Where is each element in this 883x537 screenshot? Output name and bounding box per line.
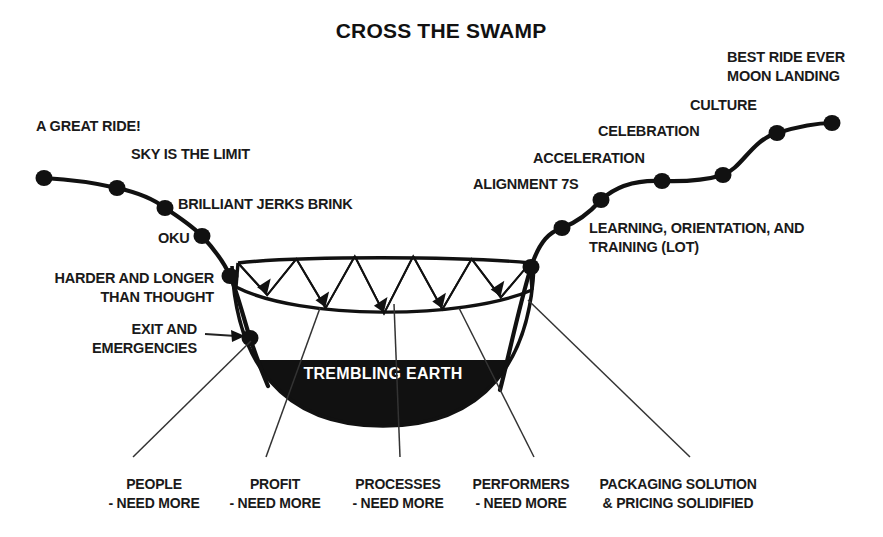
trembling-earth-label: TREMBLING EARTH [303,365,462,382]
bottom-label-packaging: PACKAGING SOLUTION& PRICING SOLIDIFIED [599,476,756,511]
milestone-label-culture: CULTURE [690,97,757,113]
milestone-node-best-ride-ever-end[interactable] [824,115,841,131]
milestone-node-oku[interactable] [194,228,211,244]
page-title: CROSS THE SWAMP [336,19,547,42]
milestone-node-alignment-7s[interactable] [554,220,571,236]
milestone-label-alignment-7s: ALIGNMENT 7S [473,176,579,192]
bottom-label-performers: PERFORMERS- NEED MORE [473,476,570,511]
milestone-node-a-great-ride[interactable] [36,170,53,186]
milestone-node-sky-is-the-limit[interactable] [109,180,126,196]
milestone-node-harder-and-longer[interactable] [222,268,239,284]
milestone-label-harder-and-longer: HARDER AND LONGERTHAN THOUGHT [54,270,214,305]
milestone-label-exit-emergencies: EXIT ANDEMERGENCIES [92,321,197,356]
trembling-earth-region: TREMBLING EARTH [225,360,545,440]
bottom-labels: PEOPLE- NEED MOREPROFIT- NEED MOREPROCES… [108,476,756,511]
milestone-label-sky-is-the-limit: SKY IS THE LIMIT [131,146,250,162]
diagram-root: CROSS THE SWAMP TREMBLING EARTH [0,0,883,537]
band-top-edge [238,258,530,263]
milestone-label-brilliant-jerks: BRILLIANT JERKS BRINK [178,196,353,212]
milestone-node-exit-emergencies[interactable] [242,330,259,346]
milestone-node-learning-lot[interactable] [523,259,540,275]
milestone-node-brilliant-jerks[interactable] [157,200,174,216]
milestone-node-celebration[interactable] [654,173,671,189]
milestone-label-a-great-ride: A GREAT RIDE! [36,118,141,134]
milestone-node-acceleration[interactable] [593,192,610,208]
milestone-label-oku: OKU [158,230,190,246]
bottom-label-processes: PROCESSES- NEED MORE [352,476,443,511]
bottom-label-people: PEOPLE- NEED MORE [108,476,199,511]
milestone-label-moon-landing: BEST RIDE EVERMOON LANDING [727,49,846,84]
leader-line-people [133,341,251,457]
band-arrow-5 [491,281,505,297]
exit-pointer-line [205,334,236,336]
milestone-label-learning-lot: LEARNING, ORIENTATION, ANDTRAINING (LOT) [589,220,804,255]
swamp-zigzag-band [236,256,532,313]
milestone-node-moon-landing[interactable] [769,125,786,141]
milestone-node-culture[interactable] [715,167,732,183]
leader-line-packaging [528,300,690,457]
milestone-label-celebration: CELEBRATION [598,123,699,139]
bottom-label-profit: PROFIT- NEED MORE [229,476,320,511]
exit-pointer-arrow [205,330,245,342]
cross-the-swamp-diagram: CROSS THE SWAMP TREMBLING EARTH [0,0,883,537]
milestone-label-acceleration: ACCELERATION [533,150,645,166]
